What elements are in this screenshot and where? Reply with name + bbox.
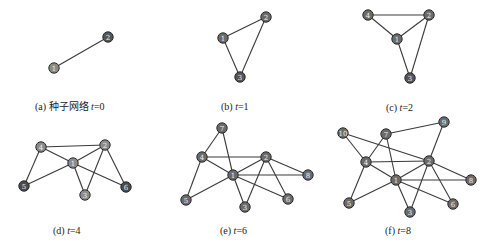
node-label: 5 xyxy=(347,200,351,208)
edge-7-1 xyxy=(222,128,233,175)
node-label: 9 xyxy=(442,119,446,127)
node-2: 2 xyxy=(261,152,271,162)
node-5: 5 xyxy=(19,181,29,191)
node-1: 1 xyxy=(68,158,78,168)
node-4: 4 xyxy=(36,142,46,152)
node-label: 5 xyxy=(184,197,188,205)
edge-4-2 xyxy=(41,145,105,147)
edge-1-2 xyxy=(396,161,429,180)
node-label: 2 xyxy=(103,142,107,150)
caption-value: =4 xyxy=(70,225,81,236)
node-label: 1 xyxy=(52,65,56,73)
caption-e: (e) t=6 xyxy=(220,225,247,236)
node-4: 4 xyxy=(363,10,373,20)
caption-c: (c) t=2 xyxy=(386,102,413,113)
node-6: 6 xyxy=(283,194,293,204)
node-3: 3 xyxy=(240,202,250,212)
edge-9-2 xyxy=(429,122,444,161)
edge-4-5 xyxy=(24,147,41,186)
caption-value: =6 xyxy=(236,225,247,236)
panel-a: 12 xyxy=(49,32,113,73)
node-6: 6 xyxy=(448,199,458,209)
node-label: 4 xyxy=(200,154,205,162)
panel-c: 4213 xyxy=(363,10,434,83)
node-9: 9 xyxy=(439,117,449,127)
node-5: 5 xyxy=(344,198,354,208)
edge-1-2 xyxy=(223,17,266,38)
panel-d: 421536 xyxy=(19,140,131,200)
node-label: 3 xyxy=(408,75,412,83)
node-label: 2 xyxy=(264,154,268,162)
caption-a: (a) 种子网络 t=0 xyxy=(35,98,105,113)
node-1: 1 xyxy=(392,34,402,44)
edge-2-6 xyxy=(429,161,453,204)
edge-7-9 xyxy=(386,122,444,134)
network-growth-figure: 1212342134215367421853610794218536 (a) 种… xyxy=(0,0,485,246)
node-label: 2 xyxy=(427,158,431,166)
node-3: 3 xyxy=(405,207,415,217)
node-2: 2 xyxy=(424,156,434,166)
node-label: 6 xyxy=(286,196,291,204)
node-label: 1 xyxy=(394,177,398,185)
caption-b: (b) t=1 xyxy=(221,101,249,112)
network-diagrams: 1212342134215367421853610794218536 xyxy=(0,0,485,246)
caption-label: (d) xyxy=(53,225,67,236)
node-1: 1 xyxy=(228,170,238,180)
edge-2-6 xyxy=(105,145,126,187)
node-label: 1 xyxy=(221,35,225,43)
node-7: 7 xyxy=(217,123,227,133)
edge-2-6 xyxy=(266,157,288,199)
caption-value: =1 xyxy=(238,101,249,112)
node-label: 2 xyxy=(106,34,110,42)
node-label: 3 xyxy=(243,204,247,212)
node-4: 4 xyxy=(361,157,371,167)
node-label: 8 xyxy=(469,177,473,185)
node-label: 2 xyxy=(264,14,268,22)
node-label: 1 xyxy=(231,172,235,180)
node-label: 1 xyxy=(395,36,399,44)
caption-d: (d) t=4 xyxy=(53,225,81,236)
caption-label: (e) xyxy=(220,225,234,236)
edge-1-5 xyxy=(24,163,73,186)
node-3: 3 xyxy=(405,73,415,83)
node-label: 1 xyxy=(71,160,75,168)
node-label: 4 xyxy=(366,12,371,20)
node-2: 2 xyxy=(424,10,434,20)
edge-4-5 xyxy=(349,162,366,203)
caption-value: =2 xyxy=(402,102,413,113)
caption-value: =8 xyxy=(400,225,411,236)
edge-4-2 xyxy=(366,161,429,162)
edge-2-8 xyxy=(429,161,471,180)
node-label: 3 xyxy=(238,74,242,82)
node-6: 6 xyxy=(121,182,131,192)
node-label: 6 xyxy=(451,201,456,209)
node-3: 3 xyxy=(235,72,245,82)
node-1: 1 xyxy=(391,175,401,185)
caption-label: (c) xyxy=(386,102,400,113)
caption-f: (f) t=8 xyxy=(385,225,411,236)
panel-f: 10794218536 xyxy=(338,117,476,217)
node-4: 4 xyxy=(197,152,207,162)
node-7: 7 xyxy=(381,129,391,139)
edge-2-3 xyxy=(240,17,266,77)
node-3: 3 xyxy=(80,190,90,200)
node-10: 10 xyxy=(338,128,348,138)
node-label: 2 xyxy=(427,12,431,20)
edge-7-1 xyxy=(386,134,396,180)
node-label: 6 xyxy=(124,184,129,192)
node-1: 1 xyxy=(49,63,59,73)
node-label: 8 xyxy=(306,172,310,180)
edge-2-3 xyxy=(410,15,429,78)
caption-value: =0 xyxy=(94,101,105,112)
node-label: 3 xyxy=(83,192,87,200)
caption-label: (b) xyxy=(221,101,235,112)
panel-e: 74218536 xyxy=(181,123,313,212)
panel-b: 123 xyxy=(218,12,271,82)
node-label: 4 xyxy=(364,159,369,167)
node-2: 2 xyxy=(100,140,110,150)
edge-1-5 xyxy=(186,175,233,200)
edge-1-2 xyxy=(397,15,429,39)
edge-1-3 xyxy=(223,38,240,77)
node-8: 8 xyxy=(466,175,476,185)
node-8: 8 xyxy=(303,170,313,180)
